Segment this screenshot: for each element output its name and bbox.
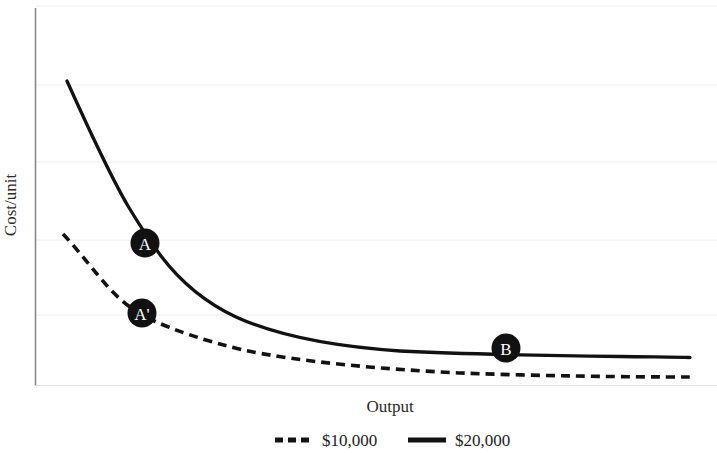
annotation-marker-a-prime: A': [128, 299, 157, 328]
annotation-marker-a: A: [131, 229, 160, 258]
marker-a-prime-label: A': [134, 305, 149, 324]
chart-legend: $10,000 $20,000: [275, 431, 510, 450]
legend-item-10000: $10,000: [275, 431, 377, 450]
marker-b-label: B: [500, 340, 511, 359]
annotation-marker-b: B: [492, 334, 521, 363]
legend-label-20000: $20,000: [455, 431, 510, 450]
marker-a-label: A: [139, 235, 152, 254]
x-axis-title: Output: [366, 397, 414, 416]
legend-label-10000: $10,000: [322, 431, 377, 450]
cost-per-unit-experience-curve-chart: A A' B Cost/unit Output $10,000 $20,000: [0, 0, 717, 453]
chart-container: A A' B Cost/unit Output $10,000 $20,000: [0, 0, 717, 453]
series-line-20000: [67, 81, 690, 358]
legend-item-20000: $20,000: [408, 431, 510, 450]
gridlines: [36, 6, 717, 315]
y-axis-title: Cost/unit: [1, 174, 20, 237]
